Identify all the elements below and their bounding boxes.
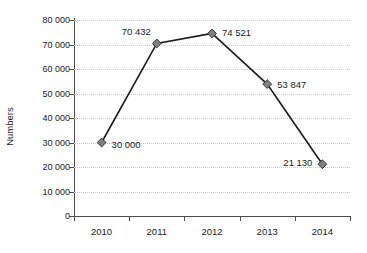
x-axis-tick-label: 2012 [201,226,222,237]
y-axis-tick-mark [69,94,74,95]
y-axis-tick-mark [69,143,74,144]
data-point-marker [152,39,161,48]
y-axis-tick-mark [69,192,74,193]
x-axis-tick-mark [129,216,130,221]
y-axis-tick-mark [69,69,74,70]
x-axis-tick-label: 2014 [312,226,333,237]
data-point-label: 74 521 [222,28,251,38]
x-axis-tick-mark [350,216,351,221]
x-axis-tick-mark [240,216,241,221]
x-axis-tick-mark [184,216,185,221]
y-axis-tick-mark [69,118,74,119]
data-point-marker [97,138,106,147]
y-axis-tick-mark [69,20,74,21]
data-point-label: 53 847 [277,80,306,90]
chart-figure: Numbers 010 00020 00030 00040 00050 0006… [0,0,367,253]
data-point-label: 21 130 [283,158,312,168]
y-axis-tick-mark [69,45,74,46]
x-axis-tick-label: 2013 [257,226,278,237]
data-point-label: 70 432 [122,27,151,37]
x-axis-tick-mark [74,216,75,221]
data-point-label: 30 000 [112,140,141,150]
x-axis-tick-label: 2011 [147,226,167,237]
x-axis-tick-label: 2010 [91,226,112,237]
x-axis-tick-mark [295,216,296,221]
data-point-marker [318,160,327,169]
y-axis-tick-mark [69,167,74,168]
